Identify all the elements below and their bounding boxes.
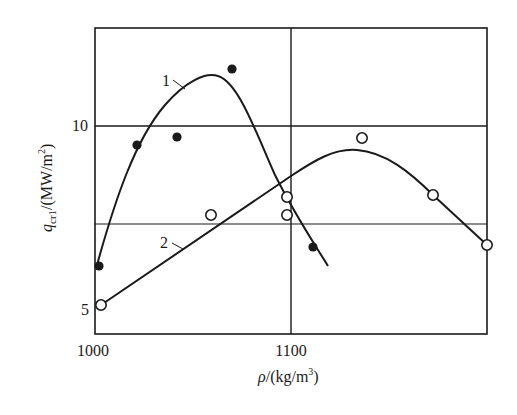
x-axis-label: ρ/(kg/m3) <box>257 366 319 386</box>
y-label-symbol: q <box>38 224 56 232</box>
data-point <box>282 192 292 202</box>
data-point <box>227 64 236 73</box>
data-point <box>132 140 141 149</box>
x-label-close: ) <box>313 368 318 386</box>
y-label-units: /(MW/m <box>38 153 56 210</box>
curve-1-leader <box>173 80 185 89</box>
chart-canvas: 1 2 1000 1100 10 5 ρ/(kg/m3) qcr1/(MW/m2… <box>0 0 517 415</box>
curve-2-label: 2 <box>160 234 168 251</box>
x-label-units: /(kg/m <box>266 368 309 386</box>
data-point <box>96 300 106 310</box>
data-point <box>206 210 216 220</box>
data-point <box>282 210 292 220</box>
data-point <box>357 133 367 143</box>
x-tick-1100: 1100 <box>275 342 306 359</box>
data-point <box>428 190 438 200</box>
x-tick-1000: 1000 <box>77 342 109 359</box>
y-axis-label: qcr1/(MW/m2) <box>36 144 58 232</box>
series-1-points <box>94 64 317 270</box>
y-tick-5: 5 <box>81 301 89 318</box>
y-tick-10: 10 <box>72 117 88 134</box>
curve-2-leader <box>172 243 183 249</box>
series-2-points <box>96 133 492 310</box>
curve-2-fit-line <box>101 150 487 305</box>
data-point <box>482 240 492 250</box>
y-label-close: ) <box>38 144 56 149</box>
data-point <box>172 132 181 141</box>
y-label-subscript: cr1 <box>46 210 58 224</box>
data-point <box>94 261 103 270</box>
x-label-symbol: ρ <box>257 368 266 386</box>
curve-1-fit-line <box>97 75 328 266</box>
data-point <box>308 242 317 251</box>
curve-1-label: 1 <box>162 72 170 89</box>
